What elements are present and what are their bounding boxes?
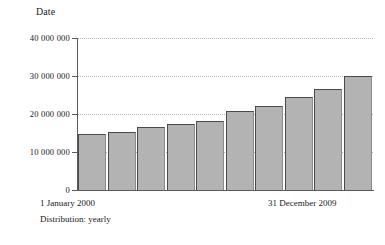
bar — [285, 97, 313, 190]
bar — [255, 106, 283, 190]
y-axis-tick-label-wrap: 10 000 000 — [0, 148, 70, 157]
bar — [196, 121, 224, 190]
bar-series — [78, 38, 373, 190]
y-axis-tick — [72, 152, 78, 153]
y-axis-tick-label: 30 000 000 — [30, 72, 70, 81]
x-axis-start-label: 1 January 2000 — [40, 198, 95, 209]
y-axis-tick — [72, 38, 78, 39]
y-axis-tick-label: 0 — [66, 186, 70, 195]
bar-chart: Date 010 000 00020 000 00030 000 00040 0… — [0, 0, 385, 245]
y-axis-tick — [72, 190, 78, 191]
distribution-label: Distribution: yearly — [40, 214, 111, 225]
bar — [167, 124, 195, 190]
y-axis-tick-label-wrap: 30 000 000 — [0, 72, 70, 81]
bar — [344, 76, 372, 190]
bar — [78, 134, 106, 190]
bar — [137, 127, 165, 190]
y-axis-tick-label-wrap: 40 000 000 — [0, 34, 70, 43]
y-axis-tick-label-wrap: 20 000 000 — [0, 110, 70, 119]
bar — [314, 89, 342, 190]
bar — [108, 132, 136, 190]
x-axis-end-label: 31 December 2009 — [268, 198, 336, 209]
chart-title: Date — [36, 6, 55, 18]
plot-area — [78, 38, 373, 190]
y-axis-tick — [72, 114, 78, 115]
x-axis-line — [77, 190, 374, 191]
y-axis-tick-label: 40 000 000 — [30, 34, 70, 43]
y-axis-tick — [72, 76, 78, 77]
y-axis-tick-label-wrap: 0 — [0, 186, 70, 195]
bar — [226, 111, 254, 190]
y-axis-tick-label: 20 000 000 — [30, 110, 70, 119]
y-axis-tick-label: 10 000 000 — [30, 148, 70, 157]
